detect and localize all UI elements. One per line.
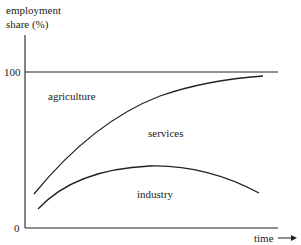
- time-arrow-head: [291, 235, 297, 241]
- y-tick-0: 0: [14, 222, 20, 234]
- region-label-industry: industry: [137, 188, 173, 200]
- region-label-services: services: [148, 127, 183, 139]
- region-label-agriculture: agriculture: [48, 90, 96, 102]
- chart-canvas: [0, 0, 301, 245]
- y-axis-label-line2: share (%): [6, 18, 48, 30]
- x-axis-label: time: [254, 232, 274, 244]
- y-tick-100: 100: [4, 66, 21, 78]
- y-axis-label-line1: employment: [6, 4, 61, 16]
